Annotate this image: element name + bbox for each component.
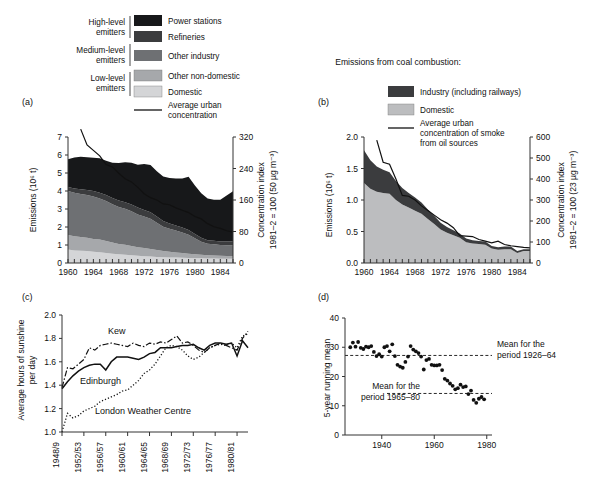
tick-label-b-y: 0.5 [346, 227, 358, 237]
scatter-point [356, 340, 360, 344]
legend-swatch-domestic [134, 86, 162, 97]
scatter-point [390, 342, 394, 346]
legend-label-refineries: Refineries [168, 33, 205, 42]
tick-label-a-x: 1960 [59, 267, 78, 277]
tick-label-a-y2: 160 [239, 195, 253, 205]
legend-label-domestic-b: Domestic [420, 106, 454, 115]
legend-group-label-high-2: emitters [96, 28, 125, 37]
legend-label-avg-urban-smoke-2: concentration of smoke [420, 129, 505, 138]
tick-label-a-y2: 0 [239, 258, 244, 268]
tick-label-d-x: 1940 [372, 440, 391, 450]
tick-label-b-y2: 200 [536, 216, 550, 226]
tick-label-d-y: 20 [330, 372, 340, 382]
tick-label-c-y: 1.8 [44, 333, 56, 343]
tick-label-b-y2: 300 [536, 195, 550, 205]
scatter-point [464, 385, 468, 389]
tick-label-c-y: 1.2 [44, 404, 56, 414]
tick-label-a-y2: 80 [239, 227, 249, 237]
tick-label-b-y2: 600 [536, 132, 550, 142]
tick-label-d-y: 40 [330, 313, 340, 323]
legend-label-avg-urban-conc-1: Average urban [168, 101, 222, 110]
tick-label-a-x: 1968 [109, 267, 128, 277]
legend-label-other-industry: Other industry [168, 52, 220, 61]
legend-label-avg-urban-smoke-1: Average urban [420, 119, 474, 128]
tick-label-b-x: 1984 [508, 267, 527, 277]
scatter-point [419, 355, 423, 359]
scatter-point [393, 354, 397, 358]
tick-label-c-y: 1.4 [44, 380, 56, 390]
tick-label-c-y: 2.0 [44, 310, 56, 320]
legend-group-label-low-1: Low-level [90, 74, 125, 83]
axis-title-a-y: Emissions (10⁶ t) [28, 168, 38, 233]
scatter-point [406, 355, 410, 359]
legend-label-domestic: Domestic [168, 88, 202, 97]
tick-label-b-x: 1964 [380, 267, 399, 277]
series-label-london-weather-centre: London Weather Centre [95, 406, 191, 416]
mean-annotation-1926-64-line1: Mean for the [497, 339, 545, 349]
legend-swatch-domestic-b [388, 104, 414, 115]
scatter-point [445, 379, 449, 383]
legend-group-label-medium-2: emitters [96, 56, 125, 65]
tick-label-d-y: 30 [330, 342, 340, 352]
scatter-point [472, 398, 476, 402]
legend-panel-a: High-level emitters Medium-level emitter… [76, 15, 240, 120]
scatter-point [482, 397, 486, 401]
tick-label-a-x: 1984 [211, 267, 230, 277]
tick-label-b-y2: 100 [536, 237, 550, 247]
scatter-point [401, 366, 405, 370]
tick-label-b-y2: 0 [536, 258, 541, 268]
tick-label-a-x: 1976 [160, 267, 179, 277]
scatter-point [456, 386, 460, 390]
panel-label-a: (a) [22, 97, 33, 107]
legend-swatch-refineries [134, 31, 162, 42]
legend-swatch-other-industry [134, 50, 162, 61]
tick-label-a-x: 1972 [135, 267, 154, 277]
scatter-point [348, 345, 352, 349]
tick-label-a-y: 3 [57, 204, 62, 214]
scatter-point [438, 363, 442, 367]
tick-label-c-x: 1964/65 [139, 442, 149, 473]
tick-label-a-x: 1964 [84, 267, 103, 277]
scatter-point [417, 351, 421, 355]
tick-label-a-y: 1 [57, 240, 62, 250]
tick-label-a-y: 7 [57, 132, 62, 142]
mean-annotation-1965-80-line2: period 1965–80 [361, 392, 420, 402]
tick-label-b-x: 1980 [482, 267, 501, 277]
tick-label-a-y2: 240 [239, 164, 253, 174]
panel-label-b: (b) [318, 97, 329, 107]
legend-b-title: Emissions from coal combustion: [335, 57, 461, 67]
series-label-kew: Kew [108, 326, 126, 336]
tick-label-b-y2: 500 [536, 153, 550, 163]
tick-label-b-y: 1.0 [346, 195, 358, 205]
tick-label-d-y: 10 [330, 401, 340, 411]
tick-label-c-x: 1976/77 [204, 442, 214, 473]
scatter-point [372, 350, 376, 354]
scatter-point [440, 368, 444, 372]
tick-label-a-y: 2 [57, 222, 62, 232]
figure-svg: High-level emitters Medium-level emitter… [0, 0, 600, 491]
legend-panel-b: Emissions from coal combustion: Industry… [335, 57, 521, 148]
tick-label-c-y: 1.6 [44, 357, 56, 367]
tick-label-d-y: 0 [334, 430, 339, 440]
tick-label-a-y: 4 [57, 186, 62, 196]
tick-label-c-x: 1948/9 [51, 442, 61, 468]
tick-label-c-x: 1980/81 [226, 442, 236, 473]
tick-label-c-x: 1952/53 [73, 442, 83, 473]
tick-label-a-y: 6 [57, 150, 62, 160]
legend-group-label-medium-1: Medium-level [76, 46, 125, 55]
legend-group-label-low-2: emitters [96, 84, 125, 93]
scatter-point [451, 384, 455, 388]
legend-swatch-power-stations [134, 15, 162, 26]
scatter-point [474, 401, 478, 405]
scatter-point [354, 345, 358, 349]
axis-title-a-y2-line2: 1981–2 = 100 (50 µg m⁻³) [268, 151, 278, 250]
tick-label-a-y2: 320 [239, 132, 253, 142]
mean-annotation-1965-80-line1: Mean for the [372, 381, 420, 391]
tick-label-d-x: 1980 [477, 440, 496, 450]
axis-title-c-y: Average hours of sunshineper day [16, 319, 37, 420]
scatter-point [388, 349, 392, 353]
axis-title-b-y2-line2: 1981–2 = 100 (23 µg m⁻³) [568, 151, 578, 250]
tick-label-c-y: 1.0 [44, 427, 56, 437]
tick-label-c-x: 1956/57 [95, 442, 105, 473]
legend-swatch-other-non-domestic [134, 70, 162, 81]
